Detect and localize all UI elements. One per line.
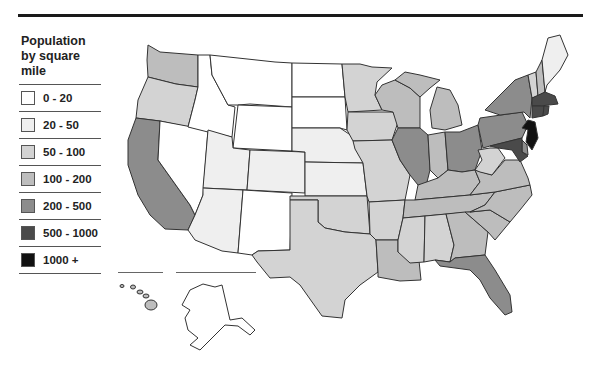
state-north-dakota[interactable]: [292, 63, 345, 97]
state-indiana[interactable]: [428, 132, 448, 178]
state-new-mexico[interactable]: [238, 190, 292, 255]
hawaii-inset: [120, 285, 157, 311]
state-rhode-island[interactable]: [543, 106, 549, 116]
state-connecticut[interactable]: [532, 106, 544, 118]
state-hawaii-island[interactable]: [143, 294, 149, 298]
state-hawaii-island[interactable]: [131, 285, 136, 289]
state-alaska[interactable]: [182, 284, 255, 350]
state-mississippi[interactable]: [398, 216, 425, 263]
state-hawaii-big-island[interactable]: [145, 300, 157, 310]
state-hawaii-island[interactable]: [120, 285, 124, 288]
alaska-inset: [182, 284, 255, 350]
state-ohio[interactable]: [445, 125, 482, 172]
state-florida[interactable]: [435, 255, 512, 315]
us-choropleth-map: [0, 0, 597, 376]
state-hawaii-island[interactable]: [137, 290, 143, 294]
state-kansas[interactable]: [305, 162, 367, 196]
state-maine[interactable]: [542, 35, 568, 92]
state-iowa[interactable]: [347, 112, 398, 141]
state-michigan[interactable]: [430, 87, 462, 130]
state-wyoming[interactable]: [233, 105, 292, 151]
state-colorado[interactable]: [247, 150, 305, 193]
state-south-dakota[interactable]: [292, 97, 347, 130]
state-new-york[interactable]: [485, 75, 532, 118]
